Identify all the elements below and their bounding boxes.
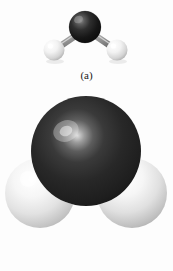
atom-hydrogen-left [44, 40, 65, 64]
panel-ball-and-stick: (a) [0, 0, 173, 90]
space-filling-model [0, 93, 173, 243]
atom-oxygen-center [69, 11, 101, 43]
atom-hydrogen-right [107, 40, 128, 64]
caption-panel-a: (a) [0, 69, 173, 81]
water-molecule-figure: (a) [0, 0, 173, 271]
panel-space-filling: (b) [0, 93, 173, 243]
atom-oxygen-center-sf [31, 96, 141, 206]
